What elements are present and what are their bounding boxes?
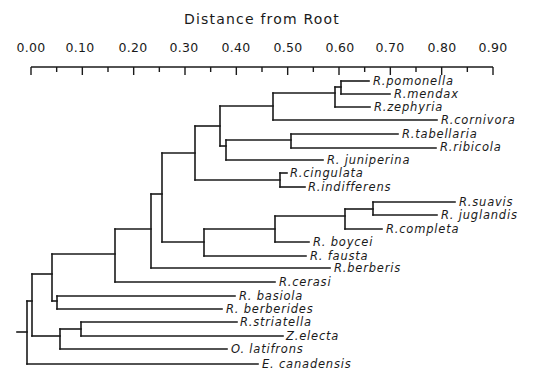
leaf-labels: R.pomonella R.mendax R.zephyria R.corniv… xyxy=(226,74,518,371)
tick-label: 0.40 xyxy=(221,40,250,55)
leaf-label: R.suavis xyxy=(459,195,513,209)
leaf-label: R.completa xyxy=(386,222,459,236)
leaf-label: R. basiola xyxy=(239,289,303,303)
tick-label: 0.00 xyxy=(16,40,45,55)
tick-label: 0.70 xyxy=(375,40,404,55)
tick-label: 0.30 xyxy=(169,40,198,55)
leaf-label: O. latifrons xyxy=(231,342,304,356)
leaf-label: R.tabellaria xyxy=(402,127,478,141)
tick-label: 0.50 xyxy=(273,40,302,55)
leaf-label: Z.electa xyxy=(285,329,339,343)
leaf-label: R. boycei xyxy=(313,235,373,249)
leaf-label: R.berberis xyxy=(334,261,401,275)
leaf-label: R. juniperina xyxy=(327,153,410,167)
leaf-label: R.cerasi xyxy=(279,275,331,289)
leaf-label: R.cornivora xyxy=(441,113,516,127)
tick-label: 0.90 xyxy=(478,40,507,55)
leaf-label: R.cingulata xyxy=(290,166,364,180)
leaf-label: R.indifferens xyxy=(308,180,391,194)
tick-label: 0.20 xyxy=(118,40,147,55)
leaf-label: R.pomonella xyxy=(373,74,454,88)
dendrogram-figure: Distance from Root 0.00 0.10 0.20 0.30 0… xyxy=(0,0,557,386)
tick-label: 0.60 xyxy=(325,40,354,55)
leaf-label: R.ribicola xyxy=(440,140,502,154)
leaf-label: E. canadensis xyxy=(262,357,352,371)
leaf-label: R. berberides xyxy=(226,302,313,316)
leaf-label: R.mendax xyxy=(394,87,459,101)
distance-axis: 0.00 0.10 0.20 0.30 0.40 0.50 0.60 0.70 … xyxy=(16,40,507,75)
leaf-label: R.striatella xyxy=(240,315,312,329)
tick-label: 0.10 xyxy=(65,40,94,55)
leaf-label: R.zephyria xyxy=(374,100,443,114)
leaf-label: R. juglandis xyxy=(441,208,518,222)
axis-title: Distance from Root xyxy=(184,11,340,27)
tick-label: 0.80 xyxy=(427,40,456,55)
